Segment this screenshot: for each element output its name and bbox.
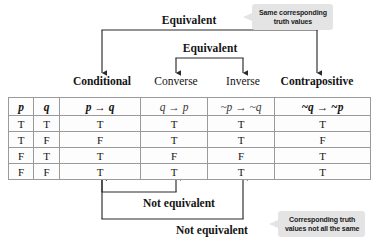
- cell-q: F: [34, 132, 60, 148]
- table-row: F F T T T T: [9, 164, 371, 180]
- label-not-equivalent-inner: Not equivalent: [99, 197, 259, 209]
- cell-p: F: [9, 148, 34, 164]
- callout-line-1: Corresponding truth: [285, 215, 359, 224]
- col-header-inverse: ~p → ~q: [208, 98, 275, 116]
- cell-p: T: [9, 132, 34, 148]
- column-title-contrapositive: Contrapositive: [264, 75, 370, 87]
- label-equivalent-inner: Equivalent: [150, 42, 270, 54]
- cell-q: F: [34, 164, 60, 180]
- callout-tail-icon: [269, 220, 278, 228]
- cell-contrapositive: F: [275, 132, 371, 148]
- cell-converse: T: [141, 116, 208, 132]
- cell-inverse: F: [208, 148, 275, 164]
- col-header-converse: q → p: [141, 98, 208, 116]
- truth-table: p q p → q q → p ~p → ~q ~q → ~p T T T T …: [8, 97, 371, 180]
- cell-q: T: [34, 148, 60, 164]
- cell-inverse: T: [208, 132, 275, 148]
- cell-inverse: T: [208, 116, 275, 132]
- cell-q: T: [34, 116, 60, 132]
- cell-converse: T: [141, 164, 208, 180]
- table-row: T T T T T T: [9, 116, 371, 132]
- label-equivalent-outer: Equivalent: [0, 14, 378, 26]
- cell-conditional: T: [60, 148, 141, 164]
- cell-conditional: T: [60, 164, 141, 180]
- table-header-row: p q p → q q → p ~p → ~q ~q → ~p: [9, 98, 371, 116]
- cell-contrapositive: T: [275, 116, 371, 132]
- col-header-p: p: [9, 98, 34, 116]
- truth-table-diagram: Same corresponding truth values Equivale…: [0, 0, 378, 244]
- table-row: T F F T T F: [9, 132, 371, 148]
- cell-p: F: [9, 164, 34, 180]
- cell-converse: F: [141, 148, 208, 164]
- bracket-not-equivalent-inner: [101, 178, 176, 192]
- callout-not-all-same: Corresponding truth values not all the s…: [269, 211, 365, 237]
- col-header-q: q: [34, 98, 60, 116]
- cell-inverse: T: [208, 164, 275, 180]
- cell-p: T: [9, 116, 34, 132]
- table-row: F T T F F T: [9, 148, 371, 164]
- cell-conditional: F: [60, 132, 141, 148]
- cell-converse: T: [141, 132, 208, 148]
- col-header-contrapositive: ~q → ~p: [275, 98, 371, 116]
- cell-contrapositive: T: [275, 148, 371, 164]
- cell-conditional: T: [60, 116, 141, 132]
- column-title-converse: Converse: [136, 75, 216, 87]
- callout-line-2: values not all the same: [285, 224, 359, 233]
- callout-not-all-same-text: Corresponding truth values not all the s…: [278, 211, 365, 237]
- col-header-conditional: p → q: [60, 98, 141, 116]
- label-not-equivalent-outer: Not equivalent: [132, 224, 292, 236]
- bracket-equivalent-inner: [175, 58, 243, 73]
- cell-contrapositive: T: [275, 164, 371, 180]
